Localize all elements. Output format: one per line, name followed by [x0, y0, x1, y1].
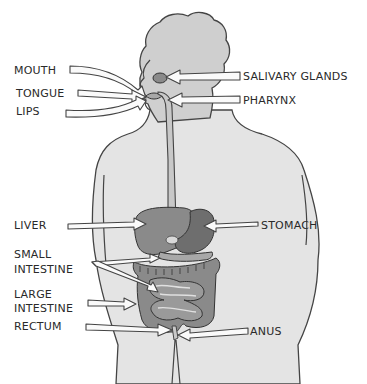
head [140, 13, 230, 122]
salivary-gland [153, 73, 167, 83]
label-small-intestine-line2: INTESTINE [14, 263, 73, 276]
label-large-intestine-line1: LARGE [14, 288, 52, 301]
label-pharynx: PHARYNX [243, 94, 297, 107]
label-rectum: RECTUM [14, 320, 62, 333]
digestive-system-diagram: MOUTH TONGUE LIPS SALIVARY GLANDS PHARYN… [0, 0, 367, 384]
label-small-intestine-line1: SMALL [14, 248, 52, 261]
label-large-intestine-line2: INTESTINE [14, 302, 73, 315]
label-anus: ANUS [250, 325, 282, 338]
label-liver: LIVER [14, 219, 47, 232]
label-salivary-glands: SALIVARY GLANDS [243, 70, 348, 83]
label-stomach: STOMACH [261, 219, 318, 232]
label-tongue: TONGUE [15, 87, 64, 100]
label-lips: LIPS [16, 105, 40, 118]
gallbladder [166, 236, 178, 244]
label-mouth: MOUTH [14, 64, 56, 77]
